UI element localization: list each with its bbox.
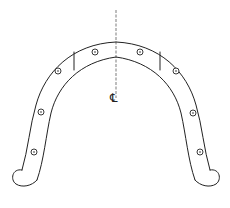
left-foot [13,170,37,186]
right-foot [195,170,219,186]
centerline-symbol: ℄ [110,92,118,104]
